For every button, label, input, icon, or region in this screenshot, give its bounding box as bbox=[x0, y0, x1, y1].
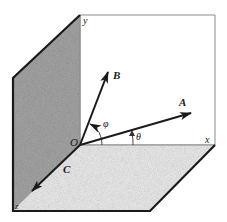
vector-c-label: C bbox=[63, 163, 71, 175]
vector-diagram: y x z O A B C φ θ bbox=[0, 0, 227, 222]
vector-b-label: B bbox=[112, 69, 120, 81]
z-axis-label: z bbox=[14, 201, 19, 211]
origin-label: O bbox=[70, 136, 78, 148]
theta-label: θ bbox=[136, 131, 141, 142]
y-axis-label: y bbox=[82, 15, 88, 26]
vector-a-label: A bbox=[178, 96, 186, 108]
phi-label: φ bbox=[103, 118, 109, 129]
x-axis-label: x bbox=[204, 134, 210, 145]
